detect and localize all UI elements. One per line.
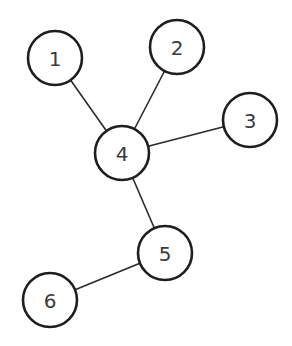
node-4: 4 (95, 126, 149, 180)
node-2: 2 (150, 20, 204, 74)
node-1: 1 (28, 31, 82, 85)
node-label: 4 (116, 142, 129, 166)
nodes-layer: 123456 (23, 20, 277, 327)
graph-diagram: 123456 (0, 0, 292, 346)
node-label: 5 (159, 242, 172, 266)
node-label: 6 (44, 289, 57, 313)
node-3: 3 (223, 93, 277, 147)
node-5: 5 (138, 226, 192, 280)
node-label: 2 (171, 36, 184, 60)
node-label: 3 (244, 109, 257, 133)
node-label: 1 (49, 47, 62, 71)
node-6: 6 (23, 273, 77, 327)
